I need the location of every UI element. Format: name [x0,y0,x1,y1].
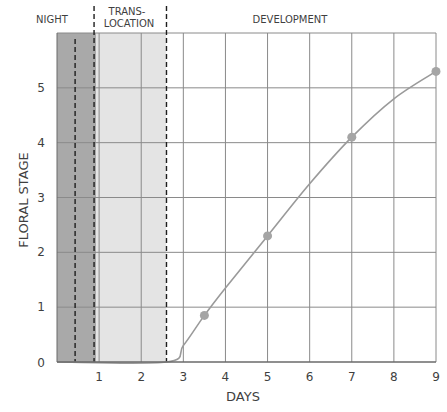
data-point [432,67,441,76]
x-tick-label: 9 [432,370,440,384]
x-tick-label: 5 [264,370,272,384]
y-tick-label: 4 [37,136,45,150]
phase-label-development: DEVELOPMENT [253,14,329,25]
x-tick-label: 7 [348,370,356,384]
data-point [200,311,209,320]
x-tick-label: 6 [306,370,314,384]
x-tick-label: 4 [222,370,230,384]
y-tick-label: 5 [37,81,45,95]
phase-label-night: NIGHT [36,14,69,25]
phase-label-translocation-1: TRANS- [108,6,146,17]
y-axis-label: FLORAL STAGE [16,152,31,247]
y-tick-label: 1 [37,300,45,314]
phase-label-translocation-2: LOCATION [104,18,155,29]
x-tick-labels: 123456789 [95,370,440,384]
y-tick-labels: 012345 [37,81,45,370]
y-tick-label: 2 [37,245,45,259]
x-tick-label: 1 [95,370,103,384]
data-point [347,133,356,142]
x-tick-label: 3 [180,370,188,384]
y-tick-label: 3 [37,191,45,205]
data-point [263,231,272,240]
x-tick-label: 8 [390,370,398,384]
floral-stage-chart: NIGHT TRANS- LOCATION DEVELOPMENT DAYS F… [0,0,447,412]
x-tick-label: 2 [137,370,145,384]
x-axis-label: DAYS [226,389,260,404]
y-tick-label: 0 [37,356,45,370]
